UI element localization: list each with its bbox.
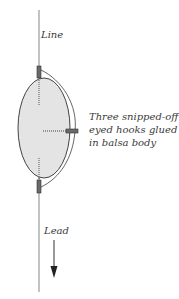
hook-annotation: Three snipped-off eyed hooks glued in ba…: [89, 110, 178, 149]
lead-arrow-head: [51, 266, 58, 278]
annotation-line-2: eyed hooks glued: [89, 123, 178, 136]
bottom-hook-eye: [37, 180, 41, 193]
annotation-line-3: in balsa body: [89, 136, 178, 149]
balsa-body: [18, 78, 70, 178]
side-hook-eye: [66, 129, 78, 133]
lead-label: Lead: [44, 224, 69, 237]
top-hook-eye: [37, 66, 41, 78]
annotation-line-1: Three snipped-off: [89, 110, 178, 123]
float-diagram: [0, 0, 179, 299]
line-label: Line: [41, 28, 63, 41]
